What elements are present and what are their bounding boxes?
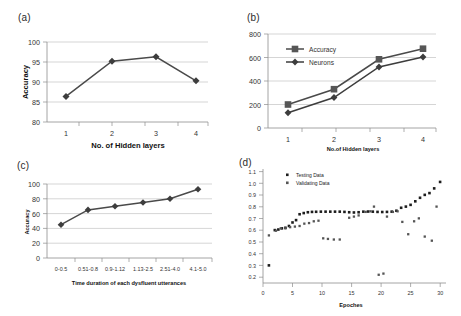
- scatter-point: [418, 217, 420, 219]
- chart-d-y-tickmarks: [259, 172, 263, 278]
- chart-a-series-line: [66, 57, 196, 97]
- chart-b-x-tickmarks: [302, 128, 436, 132]
- chart-a-y-tickmarks: [43, 42, 47, 122]
- chart-d-xtick-0: 0: [262, 290, 265, 296]
- scatter-point: [423, 194, 426, 197]
- scatter-point: [413, 220, 415, 222]
- scatter-point: [373, 205, 375, 207]
- scatter-point: [365, 211, 367, 213]
- chart-c-x-tickmarks: [75, 258, 212, 262]
- chart-b-ytick-0: 0: [257, 124, 261, 133]
- scatter-point: [407, 233, 409, 235]
- scatter-point: [414, 200, 417, 203]
- chart-c-ytick-60: 60: [32, 210, 40, 219]
- scatter-point: [348, 211, 351, 214]
- chart-c-xtick-2: 0.9-1.12: [105, 266, 125, 272]
- panel-c: (c): [0, 152, 231, 316]
- scatter-point: [357, 214, 359, 216]
- chart-b-gridlines: [268, 34, 436, 105]
- chart-c-ylabel: Accuracy: [24, 209, 30, 235]
- scatter-point: [339, 238, 341, 240]
- chart-a: 100 95 90 85 80 1 2 3 4 No. of Hidden la…: [0, 0, 231, 152]
- chart-d-points-validating: [268, 205, 438, 275]
- scatter-point: [291, 221, 294, 224]
- chart-d-xtick-3: 15: [349, 290, 355, 296]
- chart-c-series-line: [61, 189, 198, 225]
- chart-d-xtick-6: 30: [437, 290, 443, 296]
- chart-c-ytick-20: 20: [32, 239, 40, 248]
- chart-c-markers: [58, 186, 202, 228]
- scatter-point: [313, 220, 315, 222]
- scatter-point: [401, 221, 403, 223]
- scatter-point: [400, 206, 403, 209]
- scatter-point: [428, 192, 431, 195]
- chart-d-legend-testing: Testing Data: [296, 172, 324, 178]
- chart-b-y-tickmarks: [264, 34, 268, 128]
- scatter-point: [376, 211, 379, 214]
- chart-a-x-tickmarks: [79, 122, 208, 126]
- chart-a-xtick-1: 1: [64, 129, 68, 138]
- chart-b-legend-accuracy: Accuracy: [309, 46, 337, 54]
- chart-b-legend: Accuracy Neurons: [286, 46, 337, 66]
- chart-b: 800 600 400 200 0 1 2 3 4 No.of Hidden l…: [231, 0, 461, 152]
- chart-d-ytick-8: 1.0: [249, 181, 257, 187]
- chart-b-ytick-600: 600: [249, 54, 261, 63]
- chart-b-series-accuracy-line: [288, 49, 423, 105]
- scatter-point: [396, 210, 398, 212]
- scatter-point: [343, 211, 346, 214]
- chart-a-ytick-100: 100: [28, 38, 40, 47]
- chart-d-xtick-4: 20: [378, 290, 384, 296]
- scatter-point: [435, 205, 437, 207]
- chart-d-xlabel: Epoches: [339, 302, 362, 308]
- chart-a-markers: [63, 53, 200, 100]
- chart-c-ytick-0: 0: [36, 254, 40, 263]
- scatter-point: [369, 210, 371, 212]
- scatter-point: [392, 211, 394, 213]
- scatter-point: [386, 211, 389, 214]
- scatter-point: [311, 211, 314, 214]
- chart-a-ytick-95: 95: [32, 58, 40, 67]
- chart-b-legend-neurons: Neurons: [309, 59, 335, 66]
- chart-d-ytick-3: 0.5: [249, 239, 257, 245]
- chart-b-xtick-3: 3: [377, 135, 381, 144]
- chart-c-xtick-3: 1.13-2.5: [133, 266, 153, 272]
- scatter-point: [419, 196, 422, 199]
- scatter-point: [348, 217, 350, 219]
- scatter-point: [268, 234, 270, 236]
- chart-d-points-testing: [268, 181, 442, 267]
- chart-d-ytick-0: 0.2: [249, 274, 257, 280]
- scatter-point: [268, 264, 271, 267]
- chart-b-ytick-200: 200: [249, 101, 261, 110]
- scatter-point: [381, 211, 384, 214]
- chart-d: 0.2 0.3 0.4 0.5 0.6 0.7 0.8 0.9 1.0 1.1 …: [231, 152, 461, 316]
- chart-d-xtick-1: 5: [291, 290, 294, 296]
- scatter-point: [327, 238, 329, 240]
- chart-d-legend: Testing Data Validating Data: [286, 172, 330, 186]
- chart-a-ytick-80: 80: [32, 118, 40, 127]
- scatter-point: [317, 220, 319, 222]
- scatter-point: [424, 235, 426, 237]
- chart-c-y-tickmarks: [43, 184, 47, 258]
- panel-b: (b): [231, 0, 461, 152]
- chart-c-xlabel: Time duration of each dysfluent utteranc…: [72, 280, 186, 286]
- chart-b-xtick-2: 2: [332, 135, 336, 144]
- scatter-point: [289, 226, 291, 228]
- chart-d-ytick-5: 0.7: [249, 216, 257, 222]
- chart-b-ytick-800: 800: [249, 30, 261, 39]
- scatter-point: [372, 210, 375, 213]
- chart-b-xtick-4: 4: [421, 135, 425, 144]
- chart-a-ytick-90: 90: [32, 78, 40, 87]
- scatter-point: [409, 204, 412, 207]
- chart-c-xtick-0: 0-0.5: [55, 266, 67, 272]
- chart-c-xtick-1: 0.51-0.8: [78, 266, 98, 272]
- chart-d-ytick-9: 1.1: [249, 169, 257, 175]
- chart-a-xtick-2: 2: [110, 129, 114, 138]
- scatter-point: [280, 227, 282, 229]
- chart-d-ytick-7: 0.9: [249, 192, 257, 198]
- scatter-point: [329, 210, 332, 213]
- chart-c-xtick-4: 2.51-4.0: [160, 266, 180, 272]
- scatter-point: [433, 187, 436, 190]
- scatter-point: [315, 210, 318, 213]
- scatter-point: [277, 228, 280, 231]
- chart-a-xtick-4: 4: [194, 129, 198, 138]
